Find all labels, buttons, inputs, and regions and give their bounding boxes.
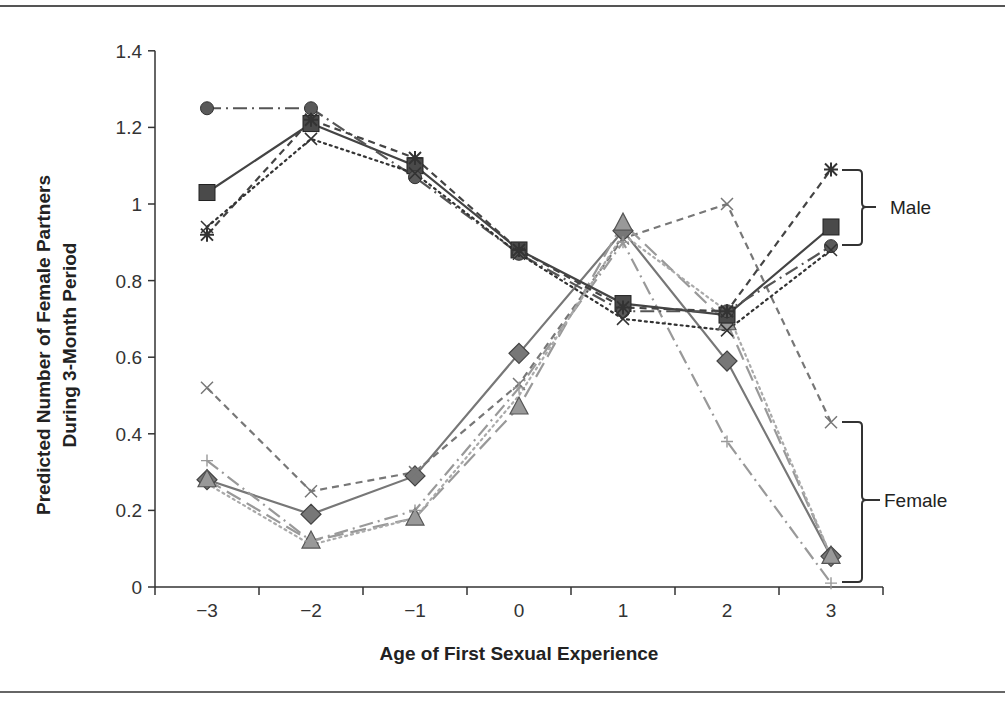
square-marker-icon	[199, 185, 215, 201]
y-axis-title-line1: Predicted Number of Female Partners	[33, 175, 54, 515]
y-axis-title-line2: During 3-Month Period	[59, 243, 80, 448]
male-label: Male	[890, 197, 931, 218]
y-axis-title: Predicted Number of Female Partners Duri…	[33, 175, 80, 515]
y-tick-label: 0.6	[116, 347, 142, 368]
square-marker-icon	[823, 219, 839, 235]
axes: 00.20.40.60.811.21.4−3−2−10123	[116, 41, 883, 621]
line-chart: 00.20.40.60.811.21.4−3−2−10123 Age of Fi…	[0, 0, 1005, 710]
asterisk-marker-icon	[408, 151, 422, 165]
series-line-male-1	[207, 124, 831, 316]
y-tick-label: 0.2	[116, 500, 142, 521]
asterisk-marker-icon	[720, 304, 734, 318]
x-axis-title: Age of First Sexual Experience	[380, 643, 659, 664]
series-line-female-5	[207, 235, 831, 557]
x-tick-label: 2	[722, 600, 733, 621]
female-label: Female	[884, 490, 947, 511]
x-tick-label: −1	[404, 600, 426, 621]
asterisk-marker-icon	[616, 300, 630, 314]
x-tick-label: −3	[196, 600, 218, 621]
diamond-marker-icon	[717, 351, 737, 371]
circle-marker-icon	[201, 102, 214, 115]
asterisk-marker-icon	[824, 163, 838, 177]
markers-layer	[197, 102, 841, 589]
x-tick-label: 3	[826, 600, 837, 621]
triangle-marker-icon	[510, 397, 528, 414]
x-marker-icon	[305, 133, 317, 145]
x-tick-label: 0	[514, 600, 525, 621]
female-brace-icon	[842, 422, 880, 582]
x-marker-icon	[201, 382, 213, 394]
triangle-marker-icon	[614, 213, 632, 230]
series-line-male-2	[207, 108, 831, 311]
y-tick-label: 0	[131, 577, 142, 598]
x-marker-icon	[721, 198, 733, 210]
y-tick-label: 1	[131, 194, 142, 215]
series-line-male-4	[207, 139, 831, 331]
series-markers-male-3	[200, 113, 838, 319]
diamond-marker-icon	[301, 504, 321, 524]
y-tick-label: 0.8	[116, 271, 142, 292]
asterisk-marker-icon	[304, 113, 318, 127]
y-tick-label: 1.4	[116, 41, 143, 62]
x-marker-icon	[825, 416, 837, 428]
female-bracket: Female	[842, 422, 947, 582]
x-tick-label: −2	[300, 600, 322, 621]
y-tick-label: 1.2	[116, 117, 142, 138]
series-markers-male-1	[199, 116, 839, 324]
y-tick-label: 0.4	[116, 424, 143, 445]
asterisk-marker-icon	[512, 243, 526, 257]
asterisk-marker-icon	[200, 228, 214, 242]
male-brace-icon	[842, 170, 876, 245]
x-tick-label: 1	[618, 600, 629, 621]
male-bracket: Male	[842, 170, 931, 245]
